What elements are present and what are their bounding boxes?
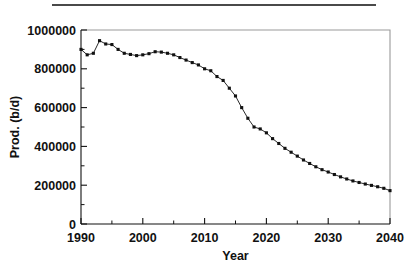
data-point-marker [166, 52, 169, 55]
data-point-marker [339, 175, 342, 178]
data-point-marker [290, 151, 293, 154]
data-point-marker [154, 50, 157, 53]
data-point-marker [246, 117, 249, 120]
data-point-marker [160, 51, 163, 54]
data-point-marker [129, 53, 132, 56]
x-tick-label: 2010 [191, 231, 219, 245]
data-point-marker [271, 137, 274, 140]
production-forecast-chart: 0200000400000600000800000100000019902000… [0, 0, 419, 279]
x-tick-label: 2040 [376, 231, 404, 245]
data-point-marker [117, 48, 120, 51]
data-point-marker [308, 162, 311, 165]
data-point-marker [265, 131, 268, 134]
data-point-marker [209, 69, 212, 72]
data-point-marker [333, 173, 336, 176]
data-point-marker [382, 187, 385, 190]
series-line-production [81, 41, 390, 191]
y-tick-label: 600000 [34, 101, 76, 115]
data-point-marker [296, 155, 299, 158]
data-point-marker [358, 181, 361, 184]
data-point-marker [172, 53, 175, 56]
x-tick-label: 2030 [314, 231, 342, 245]
y-tick-label: 0 [69, 218, 76, 232]
data-point-marker [314, 165, 317, 168]
data-point-marker [110, 43, 113, 46]
data-point-marker [277, 142, 280, 145]
data-point-marker [123, 52, 126, 55]
data-point-marker [259, 127, 262, 130]
data-point-marker [327, 170, 330, 173]
data-point-marker [234, 94, 237, 97]
y-tick-label: 1000000 [27, 24, 76, 38]
data-point-marker [203, 67, 206, 70]
data-point-marker [185, 59, 188, 62]
data-point-marker [147, 52, 150, 55]
y-axis-title: Prod. (b/d) [8, 96, 22, 159]
y-tick-label: 200000 [34, 179, 76, 193]
data-point-marker [240, 106, 243, 109]
data-point-marker [228, 87, 231, 90]
data-point-marker [388, 189, 391, 192]
chart-canvas: 0200000400000600000800000100000019902000… [0, 0, 419, 279]
data-point-marker [197, 63, 200, 66]
x-tick-label: 2000 [129, 231, 157, 245]
data-point-marker [104, 42, 107, 45]
x-tick-label: 2020 [252, 231, 280, 245]
data-point-marker [345, 177, 348, 180]
data-point-marker [178, 56, 181, 59]
data-point-marker [86, 53, 89, 56]
plot-frame [81, 30, 390, 224]
y-tick-label: 400000 [34, 140, 76, 154]
data-point-marker [283, 147, 286, 150]
data-point-marker [370, 184, 373, 187]
data-point-marker [215, 75, 218, 78]
data-point-marker [92, 52, 95, 55]
y-tick-label: 800000 [34, 62, 76, 76]
data-point-marker [252, 125, 255, 128]
data-point-marker [351, 179, 354, 182]
data-point-marker [191, 61, 194, 64]
data-point-marker [302, 158, 305, 161]
data-point-marker [320, 168, 323, 171]
x-tick-label: 1990 [67, 231, 95, 245]
data-point-marker [98, 39, 101, 42]
data-point-marker [135, 54, 138, 57]
data-point-marker [364, 182, 367, 185]
x-axis-title: Year [222, 249, 249, 263]
data-point-marker [222, 79, 225, 82]
data-point-marker [376, 185, 379, 188]
data-point-marker [141, 53, 144, 56]
data-point-marker [79, 48, 82, 51]
